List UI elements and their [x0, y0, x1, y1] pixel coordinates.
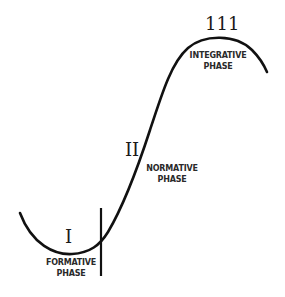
phase-1-numeral: I [65, 228, 72, 246]
phase-3-label: INTEGRATIVE PHASE [185, 50, 251, 72]
phase-2-label: NORMATIVE PHASE [142, 163, 202, 185]
phase-1-label: FORMATIVE PHASE [40, 257, 102, 279]
phase-3-numeral: 111 [205, 15, 239, 33]
phase-diagram: I FORMATIVE PHASE II NORMATIVE PHASE 111… [0, 0, 285, 297]
s-curve [0, 0, 285, 297]
phase-2-numeral: II [125, 141, 139, 159]
